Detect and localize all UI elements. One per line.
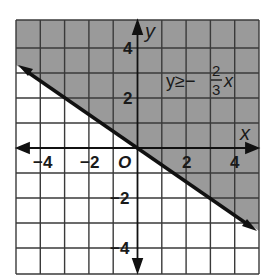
x-tick-neg2: −2 bbox=[80, 153, 99, 172]
inequality-graph: −4 −2 O 2 4 4 2 −2 −4 y x y≥− 2 3 x bbox=[0, 0, 266, 278]
x-tick-neg4: −4 bbox=[33, 153, 53, 172]
inequality-denominator: 3 bbox=[212, 81, 220, 98]
inequality-x: x bbox=[223, 71, 234, 91]
x-tick-4: 4 bbox=[230, 153, 240, 172]
x-axis-label: x bbox=[239, 122, 251, 144]
x-tick-2: 2 bbox=[182, 153, 191, 172]
y-tick-neg2: −2 bbox=[110, 189, 129, 208]
y-tick-neg4: −4 bbox=[110, 239, 130, 258]
y-tick-4: 4 bbox=[123, 39, 133, 58]
y-tick-2: 2 bbox=[123, 89, 132, 108]
inequality-numerator: 2 bbox=[212, 62, 220, 79]
y-axis-label: y bbox=[143, 20, 156, 42]
inequality-prefix: y≥− bbox=[166, 71, 195, 91]
origin-label: O bbox=[118, 153, 131, 172]
